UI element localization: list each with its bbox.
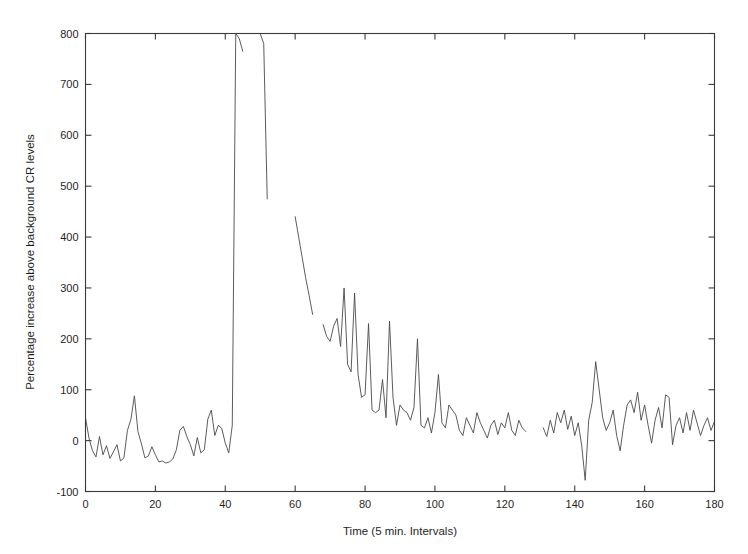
x-tick-label: 40 [219, 498, 231, 510]
x-axis-title: Time (5 min. Intervals) [343, 525, 457, 537]
x-tick-label: 100 [426, 498, 444, 510]
y-tick-label: 400 [60, 231, 78, 243]
chart-background [0, 0, 748, 554]
y-tick-label: -100 [56, 486, 78, 498]
x-tick-label: 160 [635, 498, 653, 510]
y-axis-title: Percentage increase above background CR … [24, 134, 36, 390]
x-tick-label: 20 [149, 498, 161, 510]
chart-figure: -1000100200300400500600700800 0204060801… [0, 0, 748, 554]
y-tick-label: 0 [72, 435, 78, 447]
x-tick-label: 60 [289, 498, 301, 510]
x-tick-label: 120 [496, 498, 514, 510]
y-tick-label: 500 [60, 180, 78, 192]
x-tick-label: 80 [359, 498, 371, 510]
y-tick-label: 700 [60, 78, 78, 90]
x-tick-label: 140 [566, 498, 584, 510]
x-tick-label: 0 [82, 498, 88, 510]
x-tick-label: 180 [705, 498, 723, 510]
y-tick-label: 200 [60, 333, 78, 345]
y-tick-label: 300 [60, 282, 78, 294]
line-chart: -1000100200300400500600700800 0204060801… [0, 0, 748, 554]
y-tick-label: 100 [60, 384, 78, 396]
y-tick-label: 800 [60, 28, 78, 40]
y-tick-label: 600 [60, 129, 78, 141]
